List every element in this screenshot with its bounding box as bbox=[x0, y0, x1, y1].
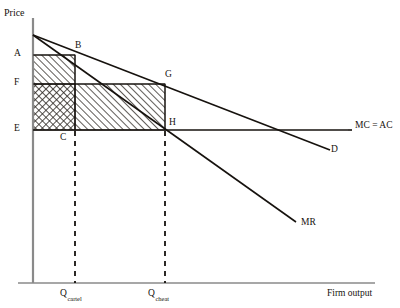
curve-label-marginal-revenue: MR bbox=[301, 218, 316, 228]
point-label-g: G bbox=[165, 70, 172, 80]
curve-label-demand: D bbox=[331, 145, 338, 155]
region-cartel-upper bbox=[33, 55, 75, 84]
price-label-e: E bbox=[14, 124, 20, 134]
quantity-label-cartel-subscript: cartel bbox=[67, 295, 81, 302]
point-label-h: H bbox=[169, 118, 176, 128]
quantity-label-cheat: Qcheat bbox=[148, 289, 169, 300]
quantity-label-cheat-subscript: cheat bbox=[155, 295, 169, 302]
y-axis-title: Price bbox=[4, 8, 25, 18]
price-label-a: A bbox=[14, 49, 21, 59]
diagram-canvas: Price Firm output A F E B C G H D MR MC … bbox=[0, 0, 400, 308]
x-axis-title: Firm output bbox=[327, 289, 372, 299]
price-label-f: F bbox=[14, 78, 19, 88]
quantity-label-cartel-base: Q bbox=[60, 288, 67, 298]
region-cartel-lower bbox=[33, 84, 75, 130]
quantity-label-cartel: Qcartel bbox=[60, 289, 81, 300]
region-cheat-profit bbox=[75, 84, 165, 130]
curve-label-mc-ac: MC = AC bbox=[355, 121, 393, 131]
economics-diagram-svg bbox=[0, 0, 400, 308]
point-label-b: B bbox=[75, 41, 81, 51]
quantity-label-cheat-base: Q bbox=[148, 288, 155, 298]
point-label-c: C bbox=[60, 133, 66, 143]
